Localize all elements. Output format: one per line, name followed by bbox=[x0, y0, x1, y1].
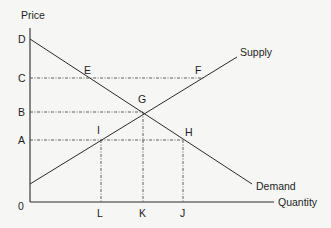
price-label-a: A bbox=[18, 134, 25, 146]
supply-curve-label: Supply bbox=[240, 46, 273, 58]
demand-curve bbox=[30, 39, 252, 184]
quantity-label-k: K bbox=[139, 207, 146, 219]
point-label-h: H bbox=[185, 126, 193, 138]
price-label-d: D bbox=[18, 33, 26, 45]
point-label-e: E bbox=[84, 64, 91, 76]
quantity-axis-label: Quantity bbox=[278, 196, 318, 208]
price-axis-label: Price bbox=[21, 9, 45, 21]
price-label-c: C bbox=[18, 72, 26, 84]
point-label-i: I bbox=[97, 124, 100, 136]
diagram-canvas: Price Quantity 0 D C B A L K J E F G I H… bbox=[0, 0, 331, 228]
quantity-label-j: J bbox=[180, 207, 185, 219]
origin-label: 0 bbox=[18, 200, 24, 212]
supply-curve bbox=[30, 57, 237, 184]
supply-demand-diagram: Price Quantity 0 D C B A L K J E F G I H… bbox=[0, 0, 331, 228]
demand-curve-label: Demand bbox=[256, 180, 296, 192]
point-label-g: G bbox=[138, 93, 146, 105]
price-label-b: B bbox=[18, 106, 25, 118]
point-label-f: F bbox=[195, 64, 201, 76]
quantity-label-l: L bbox=[97, 207, 103, 219]
